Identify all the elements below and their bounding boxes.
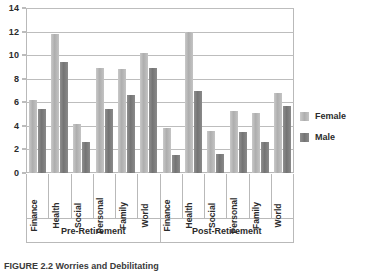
bar-group xyxy=(205,8,227,173)
legend-item-male: Male xyxy=(300,133,370,142)
category-label-cell: Family xyxy=(116,174,138,218)
male-swatch-icon xyxy=(300,133,309,142)
bar-male xyxy=(172,155,180,173)
y-tick-label-6: 6 xyxy=(14,98,19,107)
category-label-cell: Personal xyxy=(94,174,116,218)
bar-group xyxy=(160,8,182,173)
bar-group xyxy=(26,8,48,173)
bar-male xyxy=(127,95,135,173)
y-tick-label-4: 4 xyxy=(14,121,19,130)
group-label-post: Post-Retirement xyxy=(161,219,295,242)
bar-female xyxy=(140,53,148,173)
legend-item-female: Female xyxy=(300,112,370,121)
bar-male xyxy=(283,106,291,173)
y-tick-label-14: 14 xyxy=(9,4,19,13)
category-label-cell: Social xyxy=(205,174,227,218)
y-tick-label-0: 0 xyxy=(14,169,19,178)
bar-male xyxy=(38,109,46,173)
group-label-pre: Pre-Retirement xyxy=(27,219,161,242)
legend-label-female: Female xyxy=(315,112,346,121)
category-label-cell: Finance xyxy=(27,174,49,218)
bar-group xyxy=(249,8,271,173)
bar-female xyxy=(96,68,104,173)
bar-female xyxy=(29,100,37,173)
legend-label-male: Male xyxy=(315,133,335,142)
category-label-cell: Health xyxy=(183,174,205,218)
category-label-cell: Family xyxy=(250,174,272,218)
bar-male xyxy=(261,142,269,173)
y-tick-label-12: 12 xyxy=(9,27,19,36)
chart-legend: Female Male xyxy=(300,112,370,154)
category-label-cell: Social xyxy=(72,174,94,218)
bar-group xyxy=(272,8,294,173)
bar-female xyxy=(73,124,81,174)
bar-female xyxy=(163,128,171,173)
category-label-cell: Personal xyxy=(227,174,249,218)
bar-male xyxy=(149,68,157,173)
bar-female xyxy=(185,32,193,173)
bar-male xyxy=(239,132,247,173)
bar-group xyxy=(71,8,93,173)
category-label-row: FinanceHealthSocialPersonalFamilyWorldFi… xyxy=(26,174,294,219)
bar-female xyxy=(51,34,59,173)
figure-caption: FIGURE 2.2 Worries and Debilitating xyxy=(4,262,304,272)
bar-female xyxy=(252,113,260,173)
bar-female xyxy=(207,131,215,173)
bar-group xyxy=(93,8,115,173)
bar-female xyxy=(274,93,282,173)
bar-female xyxy=(230,111,238,173)
bar-male xyxy=(82,142,90,173)
bar-group xyxy=(115,8,137,173)
bar-group xyxy=(138,8,160,173)
category-label-cell: Finance xyxy=(161,174,183,218)
figure-container: 14121086420 FinanceHealthSocialPersonalF… xyxy=(0,0,372,273)
bar-group xyxy=(227,8,249,173)
bar-male xyxy=(216,154,224,173)
bar-male xyxy=(105,109,113,173)
category-label-cell: World xyxy=(138,174,160,218)
bar-female xyxy=(118,69,126,173)
category-label-cell: Health xyxy=(49,174,71,218)
female-swatch-icon xyxy=(300,112,309,121)
y-axis: 14121086420 xyxy=(0,8,26,173)
bar-male xyxy=(60,62,68,173)
bar-group xyxy=(182,8,204,173)
y-tick-label-8: 8 xyxy=(14,74,19,83)
bar-group xyxy=(48,8,70,173)
bar-male xyxy=(194,91,202,174)
y-tick-label-2: 2 xyxy=(14,145,19,154)
group-label-row: Pre-RetirementPost-Retirement xyxy=(26,219,294,243)
plot-area xyxy=(26,8,294,173)
bar-series-layer xyxy=(26,8,294,173)
y-tick-label-10: 10 xyxy=(9,51,19,60)
category-label-cell: World xyxy=(272,174,294,218)
